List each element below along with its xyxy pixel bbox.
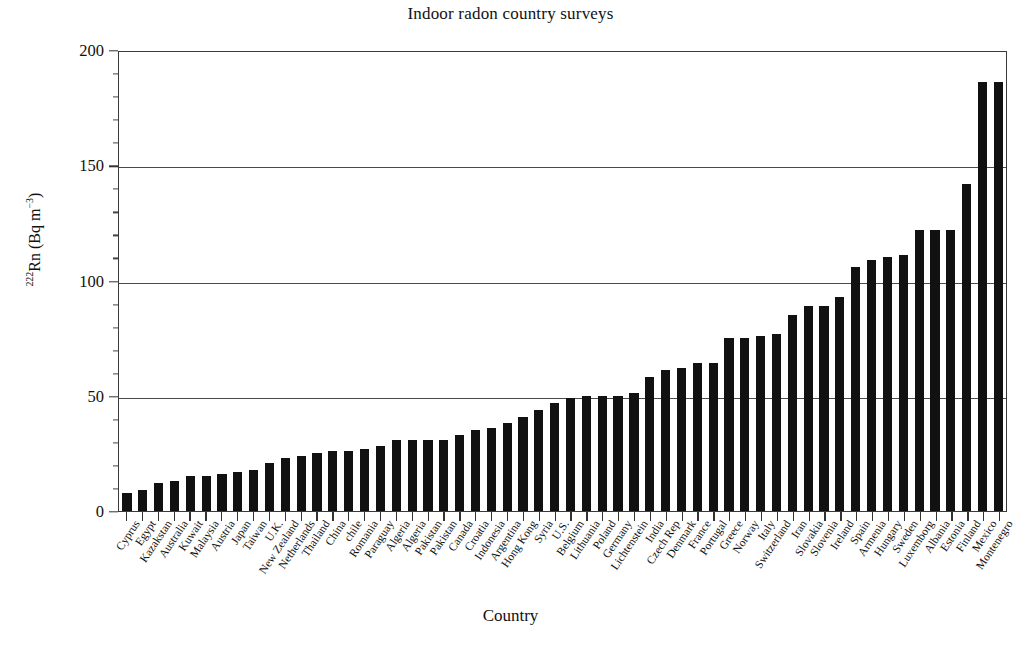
bar xyxy=(883,257,892,511)
bar xyxy=(423,440,432,511)
bar-slot xyxy=(230,52,246,511)
bar-slot xyxy=(911,52,927,511)
bar xyxy=(281,458,290,511)
bar xyxy=(233,472,242,511)
bar-slot xyxy=(864,52,880,511)
y-tick-70 xyxy=(113,350,118,351)
y-tick-100 xyxy=(109,281,118,282)
bar-slot xyxy=(262,52,278,511)
y-axis: 050100150200 xyxy=(0,51,118,512)
bar-slot xyxy=(246,52,262,511)
bar xyxy=(946,230,955,511)
bar-slot xyxy=(388,52,404,511)
bar xyxy=(851,267,860,511)
bar xyxy=(265,463,274,511)
bar-slot xyxy=(927,52,943,511)
bar xyxy=(740,338,749,511)
plot-area xyxy=(118,51,1007,512)
bar-slot xyxy=(547,52,563,511)
bar xyxy=(439,440,448,511)
y-tick-label-100: 100 xyxy=(79,272,104,292)
y-tick-180 xyxy=(113,97,118,98)
bar-slot xyxy=(816,52,832,511)
bar-slot xyxy=(293,52,309,511)
bar xyxy=(550,403,559,511)
bar xyxy=(471,430,480,511)
bar-slot xyxy=(436,52,452,511)
y-tick-label-50: 50 xyxy=(88,387,105,407)
bar xyxy=(645,377,654,511)
bar xyxy=(186,476,195,511)
y-tick-200 xyxy=(109,50,118,51)
bar-slot xyxy=(737,52,753,511)
bar-slot xyxy=(563,52,579,511)
bar-slot xyxy=(943,52,959,511)
bar xyxy=(392,440,401,511)
y-tick-30 xyxy=(113,442,118,443)
bar-slot xyxy=(578,52,594,511)
bar-slot xyxy=(721,52,737,511)
bar-slot xyxy=(990,52,1006,511)
bar xyxy=(994,82,1003,511)
bar xyxy=(804,306,813,511)
bar xyxy=(693,363,702,511)
bar-slot xyxy=(357,52,373,511)
bar xyxy=(534,410,543,511)
y-tick-label-150: 150 xyxy=(79,156,104,176)
bar xyxy=(344,451,353,511)
y-tick-130 xyxy=(113,212,118,213)
bar-slot xyxy=(753,52,769,511)
y-tick-50 xyxy=(109,396,118,397)
bar xyxy=(629,393,638,511)
bar-slot xyxy=(975,52,991,511)
y-tick-170 xyxy=(113,120,118,121)
chart-figure: Indoor radon country surveys 05010015020… xyxy=(0,0,1021,654)
y-tick-0 xyxy=(109,511,118,512)
y-tick-label-200: 200 xyxy=(79,41,104,61)
bar-slot xyxy=(880,52,896,511)
y-tick-150 xyxy=(109,166,118,167)
bar-slot xyxy=(800,52,816,511)
bar-slot xyxy=(277,52,293,511)
bar xyxy=(788,315,797,511)
bar xyxy=(455,435,464,511)
bar-slot xyxy=(468,52,484,511)
bar-slot xyxy=(452,52,468,511)
bar xyxy=(312,453,321,511)
bar-slot xyxy=(214,52,230,511)
bar xyxy=(661,370,670,511)
y-tick-110 xyxy=(113,258,118,259)
bar xyxy=(772,334,781,511)
bar-slot xyxy=(531,52,547,511)
bar-slot xyxy=(626,52,642,511)
bar-slot xyxy=(182,52,198,511)
bar-slot xyxy=(769,52,785,511)
bar xyxy=(709,363,718,511)
bar-slot xyxy=(642,52,658,511)
bar xyxy=(724,338,733,511)
y-tick-10 xyxy=(113,488,118,489)
bar xyxy=(582,396,591,511)
bar-slot xyxy=(610,52,626,511)
bar-slot xyxy=(674,52,690,511)
y-tick-90 xyxy=(113,304,118,305)
bar xyxy=(503,423,512,511)
bar xyxy=(835,297,844,511)
y-tick-label-0: 0 xyxy=(96,502,104,522)
y-tick-20 xyxy=(113,465,118,466)
bar xyxy=(930,230,939,511)
y-axis-title: 222Rn (Bq m−3) xyxy=(24,30,43,450)
bar-slot xyxy=(689,52,705,511)
bar xyxy=(154,483,163,511)
chart-title: Indoor radon country surveys xyxy=(0,4,1021,24)
y-tick-160 xyxy=(113,143,118,144)
y-tick-80 xyxy=(113,327,118,328)
bar-slot xyxy=(151,52,167,511)
bar xyxy=(962,184,971,511)
bar-slot xyxy=(515,52,531,511)
bar xyxy=(566,398,575,511)
bar xyxy=(899,255,908,511)
y-tick-40 xyxy=(113,419,118,420)
bar-slot xyxy=(959,52,975,511)
bar xyxy=(518,417,527,512)
